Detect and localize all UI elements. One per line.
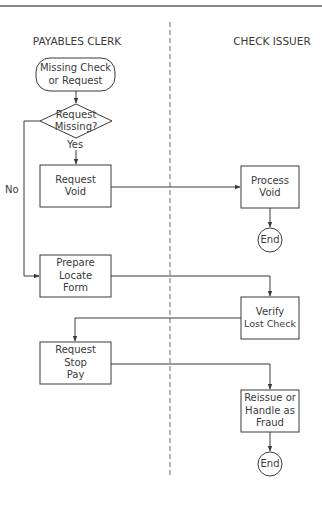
request-void-node: Request Void bbox=[40, 165, 111, 207]
process-void-line2: Void bbox=[259, 187, 280, 200]
verify-lost-line1: Verify bbox=[256, 306, 284, 319]
prepare-form-line2: Locate bbox=[59, 270, 92, 283]
end1-label: End bbox=[260, 234, 279, 247]
reissue-or-fraud-node: Reissue or Handle as Fraud bbox=[241, 390, 299, 432]
request-stop-line1: Request bbox=[55, 344, 96, 357]
request-void-line1: Request bbox=[55, 174, 96, 187]
prepare-form-line3: Form bbox=[63, 282, 88, 295]
edge-prepare-verify bbox=[111, 276, 270, 296]
verify-lost-line2: Lost Check bbox=[244, 318, 296, 331]
request-void-line2: Void bbox=[65, 186, 86, 199]
prepare-locate-form-node: Prepare Locate Form bbox=[40, 255, 111, 297]
process-void-node: Process Void bbox=[241, 166, 299, 208]
lane-title-payables-clerk: PAYABLES CLERK bbox=[33, 35, 122, 47]
edge-decision-no bbox=[24, 121, 40, 276]
reissue-line3: Fraud bbox=[256, 417, 284, 430]
request-stop-pay-node: Request Stop Pay bbox=[40, 342, 111, 384]
end-node-2: End bbox=[258, 452, 282, 476]
prepare-form-line1: Prepare bbox=[56, 257, 94, 270]
verify-lost-check-node: Verify Lost Check bbox=[241, 297, 299, 339]
start-terminal: Missing Check or Request bbox=[36, 58, 115, 91]
decision-label-line2: Missing? bbox=[55, 121, 98, 134]
start-label-line2: or Request bbox=[48, 75, 102, 88]
edge-label-yes: Yes bbox=[67, 139, 83, 150]
start-label-line1: Missing Check bbox=[40, 62, 111, 75]
end-node-1: End bbox=[258, 228, 282, 252]
edge-label-no: No bbox=[5, 184, 19, 195]
lane-title-check-issuer: CHECK ISSUER bbox=[233, 35, 310, 47]
decision-label-line1: Request bbox=[56, 109, 97, 122]
request-stop-line3: Pay bbox=[67, 369, 85, 382]
end2-label: End bbox=[260, 458, 279, 471]
request-stop-line2: Stop bbox=[64, 357, 87, 370]
reissue-line1: Reissue or bbox=[244, 392, 296, 405]
edge-verify-requeststop bbox=[75, 318, 241, 341]
reissue-line2: Handle as bbox=[245, 405, 295, 418]
process-void-line1: Process bbox=[251, 175, 289, 188]
decision-request-missing: Request Missing? bbox=[40, 107, 112, 135]
edge-requeststop-reissue bbox=[111, 364, 270, 389]
